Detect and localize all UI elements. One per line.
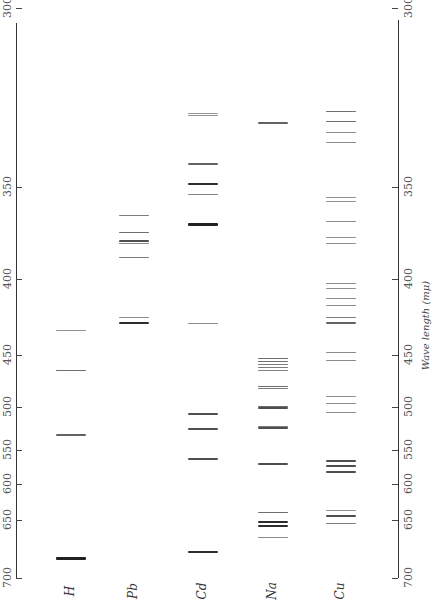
- spectral-line-cu: [326, 132, 356, 133]
- spectral-line-na: [258, 512, 288, 513]
- right-axis-tick: [392, 279, 398, 280]
- left-axis-tick: [16, 450, 22, 451]
- right-axis-tick: [392, 355, 398, 356]
- right-axis-tick: [392, 578, 398, 579]
- right-axis-tick: [392, 450, 398, 451]
- left-axis-tick: [16, 8, 22, 9]
- spectral-line-cu: [326, 288, 356, 289]
- right-axis-tick: [392, 8, 398, 9]
- spectral-line-h: [56, 330, 86, 331]
- spectral-line-cu: [326, 283, 356, 284]
- left-axis-tick-label: 500: [1, 392, 14, 422]
- spectral-line-cu: [326, 515, 356, 517]
- element-label-h: H: [63, 576, 77, 606]
- right-axis-tick: [392, 520, 398, 521]
- left-axis-tick: [16, 187, 22, 188]
- spectral-line-cd: [188, 113, 218, 114]
- left-axis-tick-label: 300: [1, 0, 14, 23]
- spectral-line-cu: [326, 121, 356, 122]
- spectral-line-pb: [119, 240, 149, 242]
- spectral-line-h: [56, 434, 86, 435]
- spectral-line-na: [258, 525, 288, 527]
- spectral-line-cu: [326, 360, 356, 361]
- spectral-line-na: [258, 463, 288, 465]
- spectral-line-cu: [326, 298, 356, 299]
- spectral-lines-diagram: 300350400450500550600650700 300350400450…: [0, 0, 436, 606]
- left-axis-tick-label: 400: [1, 264, 14, 294]
- spectral-line-na: [258, 537, 288, 538]
- spectral-line-cu: [326, 465, 356, 467]
- spectral-line-cd: [188, 323, 218, 324]
- spectral-line-h: [56, 557, 86, 560]
- element-label-pb: Pb: [126, 576, 140, 606]
- spectral-line-na: [258, 361, 288, 362]
- spectral-line-cu: [326, 111, 356, 112]
- spectral-line-cd: [188, 115, 218, 116]
- left-axis-tick-label: 700: [1, 563, 14, 593]
- left-axis-tick: [16, 484, 22, 485]
- right-axis-tick-label: 600: [402, 469, 415, 499]
- right-axis-tick-label: 550: [402, 435, 415, 465]
- left-axis-tick: [16, 355, 22, 356]
- spectral-line-cd: [188, 223, 218, 226]
- spectral-line-pb: [119, 317, 149, 318]
- left-axis-tick-label: 650: [1, 505, 14, 535]
- spectral-line-na: [258, 367, 288, 368]
- left-axis-tick-label: 350: [1, 172, 14, 202]
- spectral-line-na: [258, 386, 288, 387]
- spectral-line-cd: [188, 413, 218, 415]
- right-axis-tick-label: 350: [402, 172, 415, 202]
- spectral-line-cd: [188, 428, 218, 430]
- spectral-line-cu: [326, 305, 356, 306]
- right-axis-tick-label: 300: [402, 0, 415, 23]
- spectral-line-pb: [119, 243, 149, 244]
- spectral-line-na: [258, 358, 288, 359]
- right-axis-tick-label: 700: [402, 563, 415, 593]
- spectral-line-cu: [326, 510, 356, 511]
- element-label-na: Na: [265, 576, 279, 606]
- spectral-line-cu: [326, 243, 356, 244]
- spectral-line-cd: [188, 551, 218, 553]
- left-axis-tick: [16, 279, 22, 280]
- element-label-cd: Cd: [195, 576, 209, 606]
- spectral-line-cu: [326, 142, 356, 143]
- spectral-line-pb: [119, 257, 149, 258]
- right-axis-tick: [392, 484, 398, 485]
- left-axis-line: [16, 23, 17, 578]
- spectral-line-cu: [326, 412, 356, 413]
- right-axis-line: [398, 20, 399, 578]
- spectral-line-pb: [119, 215, 149, 216]
- spectral-line-cd: [188, 163, 218, 164]
- spectral-line-na: [258, 388, 288, 389]
- spectral-line-cu: [326, 221, 356, 222]
- spectral-line-cd: [188, 194, 218, 195]
- spectral-line-cu: [326, 322, 356, 323]
- spectral-line-cu: [326, 197, 356, 198]
- right-axis-tick: [392, 407, 398, 408]
- spectral-line-cd: [188, 183, 218, 185]
- spectral-line-na: [258, 521, 288, 523]
- right-axis-tick-label: 650: [402, 505, 415, 535]
- spectral-line-cu: [326, 317, 356, 318]
- spectral-line-pb: [119, 232, 149, 233]
- spectral-line-na: [258, 122, 288, 123]
- element-label-cu: Cu: [333, 576, 347, 606]
- spectral-line-cu: [326, 471, 356, 473]
- spectral-line-cu: [326, 352, 356, 353]
- left-axis-tick: [16, 578, 22, 579]
- spectral-line-na: [258, 364, 288, 365]
- right-axis-tick-label: 400: [402, 264, 415, 294]
- right-axis-tick-label: 500: [402, 392, 415, 422]
- spectral-line-cu: [326, 237, 356, 238]
- spectral-line-cu: [326, 403, 356, 404]
- left-axis-tick: [16, 407, 22, 408]
- left-axis-tick: [16, 520, 22, 521]
- axis-title: Wave length (mμ): [420, 271, 431, 381]
- spectral-line-h: [56, 370, 86, 371]
- spectral-line-na: [258, 427, 288, 429]
- right-axis-tick-label: 450: [402, 340, 415, 370]
- spectral-line-pb: [119, 322, 149, 324]
- spectral-line-cd: [188, 458, 218, 460]
- spectral-line-na: [258, 407, 288, 409]
- left-axis-tick-label: 550: [1, 435, 14, 465]
